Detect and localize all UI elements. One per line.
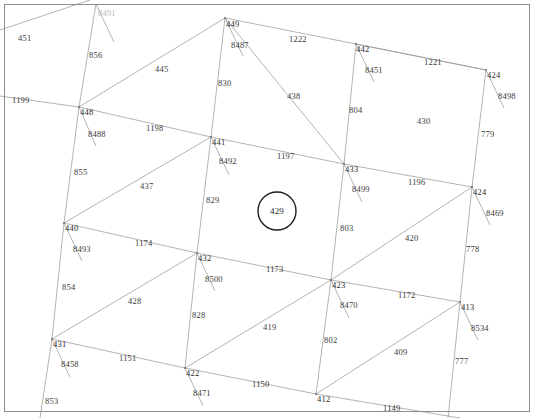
parcel-label-828[interactable]: 828 [192,311,205,320]
parcel-label-1173[interactable]: 1173 [266,265,284,274]
parcel-label-853[interactable]: 853 [45,397,58,406]
parcel-label-424[interactable]: 424 [473,188,486,197]
parcel-label-1198[interactable]: 1198 [146,124,164,133]
parcel-boundary-line-419[interactable] [185,280,331,368]
parcel-label-802[interactable]: 802 [324,336,337,345]
parcel-network-svg [0,0,534,419]
parcel-label-8471[interactable]: 8471 [193,389,211,398]
parcel-label-431[interactable]: 431 [53,340,66,349]
parcel-label-428[interactable]: 428 [128,297,141,306]
parcel-label-1150[interactable]: 1150 [252,380,270,389]
parcel-label-1197[interactable]: 1197 [277,152,295,161]
parcel-label-438[interactable]: 438 [287,92,300,101]
parcel-label-1172[interactable]: 1172 [398,291,416,300]
parcel-label-8469[interactable]: 8469 [486,209,504,218]
parcel-label-804[interactable]: 804 [349,106,362,115]
parcel-label-412[interactable]: 412 [317,395,330,404]
parcel-boundary-line-804[interactable] [344,44,356,164]
parcel-label-8498[interactable]: 8498 [498,92,516,101]
parcel-label-413[interactable]: 413 [461,303,474,312]
parcel-boundary-line-420[interactable] [331,187,472,280]
parcel-label-8493[interactable]: 8493 [73,245,91,254]
parcel-label-1199[interactable]: 1199 [12,96,30,105]
parcel-label-432[interactable]: 432 [198,254,211,263]
parcel-label-830[interactable]: 830 [218,79,231,88]
parcel-label-8487[interactable]: 8487 [231,41,249,50]
parcel-label-451[interactable]: 451 [18,34,31,43]
parcel-label-778[interactable]: 778 [466,245,479,254]
parcel-label-1222[interactable]: 1222 [289,35,307,44]
parcel-label-437[interactable]: 437 [140,182,153,191]
parcel-label-8491[interactable]: 8491 [98,9,116,18]
parcel-boundary-line-409[interactable] [316,302,460,394]
parcel-label-1149[interactable]: 1149 [383,404,401,413]
parcel-label-856[interactable]: 856 [89,51,102,60]
parcel-label-441[interactable]: 441 [212,138,225,147]
parcel-boundary-line-853[interactable] [40,339,52,418]
parcel-label-422[interactable]: 422 [186,369,199,378]
parcel-boundary-line-428[interactable] [52,253,197,339]
parcel-label-8534[interactable]: 8534 [471,324,489,333]
parcel-label-8499[interactable]: 8499 [352,185,370,194]
parcel-label-803[interactable]: 803 [340,224,353,233]
parcel-label-424[interactable]: 424 [487,71,500,80]
parcel-label-409[interactable]: 409 [394,348,407,357]
parcel-label-1151[interactable]: 1151 [119,354,137,363]
highlighted-parcel-label[interactable]: 429 [270,207,284,216]
parcel-label-854[interactable]: 854 [62,283,75,292]
parcel-boundary-line-445[interactable] [79,18,225,107]
parcel-boundary-line-855[interactable] [64,107,79,223]
parcel-label-8470[interactable]: 8470 [340,301,358,310]
parcel-label-1221[interactable]: 1221 [424,58,442,67]
parcel-label-442[interactable]: 442 [356,45,369,54]
parcel-label-1196[interactable]: 1196 [408,178,426,187]
parcel-map-canvas: 8491451856449848712224428451122142484984… [0,0,534,419]
parcel-label-8451[interactable]: 8451 [365,66,383,75]
parcel-boundary-line-1172[interactable] [331,280,460,302]
parcel-label-8488[interactable]: 8488 [88,130,106,139]
map-border-frame [5,5,530,412]
parcel-boundary-line-437[interactable] [64,137,211,223]
parcel-label-445[interactable]: 445 [155,65,168,74]
parcel-label-1174[interactable]: 1174 [135,239,153,248]
parcel-boundary-line-854[interactable] [52,223,64,339]
parcel-label-8492[interactable]: 8492 [219,157,237,166]
parcel-label-440[interactable]: 440 [65,224,78,233]
parcel-label-829[interactable]: 829 [206,196,219,205]
parcel-label-777[interactable]: 777 [455,357,468,366]
parcel-label-855[interactable]: 855 [74,168,87,177]
parcel-label-420[interactable]: 420 [405,234,418,243]
parcel-label-449[interactable]: 449 [226,20,239,29]
parcel-label-8458[interactable]: 8458 [61,360,79,369]
parcel-label-423[interactable]: 423 [332,281,345,290]
parcel-label-419[interactable]: 419 [263,323,276,332]
parcel-label-430[interactable]: 430 [417,117,430,126]
parcel-boundary-line-803[interactable] [331,164,344,280]
parcel-label-448[interactable]: 448 [80,108,93,117]
parcel-label-433[interactable]: 433 [345,165,358,174]
parcel-label-779[interactable]: 779 [481,130,494,139]
parcel-label-8500[interactable]: 8500 [205,275,223,284]
